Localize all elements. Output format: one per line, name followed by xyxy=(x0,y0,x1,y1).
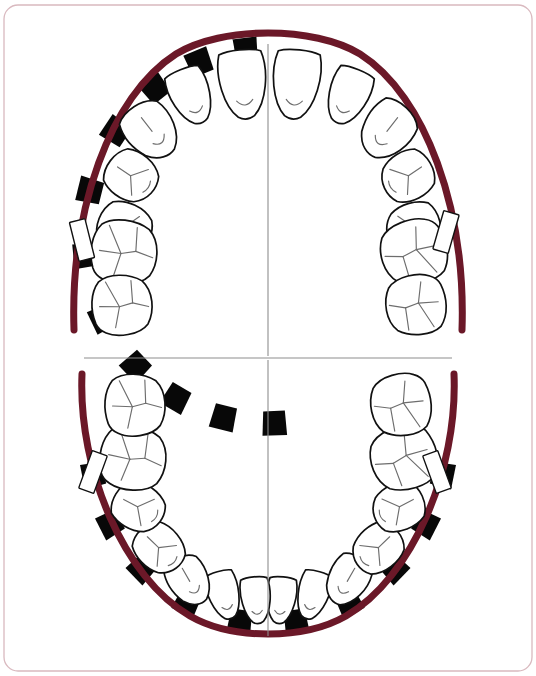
odontogram-canvas[interactable] xyxy=(0,0,536,676)
tooth-outline xyxy=(369,372,433,438)
interproximal-marker-filled[interactable] xyxy=(263,411,288,436)
dental-chart-page xyxy=(0,0,536,676)
tooth-occlusal-groove xyxy=(100,306,120,307)
tooth-second-molar-27[interactable] xyxy=(385,274,447,336)
tooth-second-molar-37[interactable] xyxy=(369,372,433,438)
tooth-outline xyxy=(103,372,167,438)
tooth-second-molar-47[interactable] xyxy=(103,372,167,438)
tooth-second-molar-17[interactable] xyxy=(91,274,153,336)
interproximal-marker-open[interactable] xyxy=(235,409,260,436)
tooth-outline xyxy=(385,274,447,336)
